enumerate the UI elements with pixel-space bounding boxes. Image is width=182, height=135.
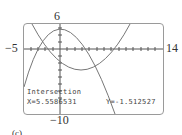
intersection-title: Intersection [27, 89, 81, 96]
ymax-label: 6 [54, 10, 60, 22]
xmax-label: 14 [166, 42, 178, 54]
intersection-x: X=5.5586531 [27, 99, 77, 106]
curve-parabola-up [32, 24, 130, 70]
figure-caption: (c) [12, 128, 22, 135]
xmin-label: −5 [5, 42, 18, 54]
graph-screen: Intersection X=5.5586531 Y=-1.512527 [23, 23, 164, 115]
ymin-label: −10 [50, 114, 69, 126]
intersection-y: Y=-1.512527 [106, 99, 156, 106]
